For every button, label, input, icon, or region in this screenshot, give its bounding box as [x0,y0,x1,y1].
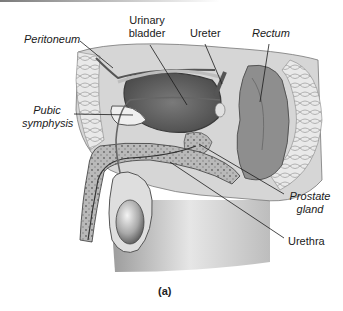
label-prostate-gland-line1: Prostate [286,190,334,203]
label-pubic-symphysis-line1: Pubic [22,104,72,117]
label-urethra: Urethra [288,235,325,248]
label-prostate-gland-line2: gland [286,203,334,216]
label-peritoneum: Peritoneum [24,33,80,46]
label-urinary-bladder-line2: bladder [122,27,172,40]
testis [116,200,144,244]
seminal-vesicle [215,103,225,117]
label-pubic-symphysis: Pubic symphysis [22,104,72,130]
label-ureter: Ureter [190,27,221,40]
figure-caption: (a) [158,285,171,297]
label-urinary-bladder: Urinary bladder [122,14,172,40]
anatomy-illustration [0,0,343,311]
label-rectum: Rectum [252,27,290,40]
label-prostate-gland: Prostate gland [286,190,334,216]
label-pubic-symphysis-line2: symphysis [22,117,72,130]
label-urinary-bladder-line1: Urinary [122,14,172,27]
